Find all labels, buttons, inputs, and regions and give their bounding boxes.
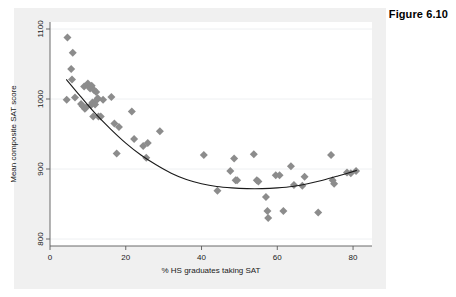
x-tick-label: 0 [48,253,53,262]
x-axis-title: % HS graduates taking SAT [161,266,260,275]
y-tick-label: 1100 [36,20,45,38]
plot-area-background [50,22,372,246]
y-tick-label: 900 [36,162,45,176]
x-tick-label: 60 [273,253,282,262]
x-tick-labels: 020406080 [48,253,358,262]
y-tick-labels: 80090010001100 [36,20,45,246]
y-tick-label: 800 [36,232,45,246]
figure-label: Figure 6.10 [389,8,448,20]
scatter-chart: 020406080 80090010001100 % HS graduates … [0,0,456,297]
figure-container: 020406080 80090010001100 % HS graduates … [0,0,456,297]
x-tick-label: 80 [349,253,358,262]
y-tick-label: 1000 [36,90,45,108]
y-axis-title: Mean composite SAT score [9,85,18,183]
x-tick-label: 40 [197,253,206,262]
x-tick-label: 20 [121,253,130,262]
